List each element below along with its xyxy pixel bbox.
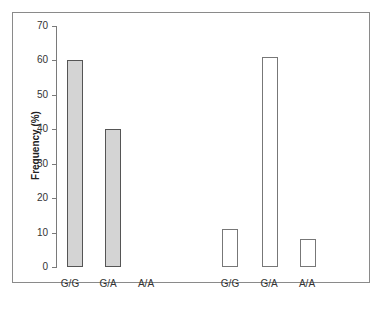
- y-tick-label: 20: [26, 192, 48, 203]
- y-tick: [52, 233, 56, 234]
- y-tick-label: 50: [26, 89, 48, 100]
- y-tick-label: 30: [26, 158, 48, 169]
- bar-aa: [300, 239, 316, 267]
- category-label: A/A: [131, 278, 161, 289]
- y-tick-label: 70: [26, 20, 48, 31]
- category-label: G/A: [254, 278, 284, 289]
- bar-gg: [67, 60, 83, 267]
- y-tick: [52, 60, 56, 61]
- y-tick: [52, 164, 56, 165]
- chart-frame: [12, 12, 370, 283]
- category-label: G/A: [93, 278, 123, 289]
- y-tick: [52, 26, 56, 27]
- bar-gg: [222, 229, 238, 267]
- bar-ga: [105, 129, 121, 267]
- category-label: G/G: [55, 278, 85, 289]
- category-label: G/G: [215, 278, 245, 289]
- y-axis: [56, 26, 57, 268]
- category-label: A/A: [292, 278, 322, 289]
- bar-ga: [262, 57, 278, 267]
- y-tick-label: 0: [26, 261, 48, 272]
- y-tick: [52, 95, 56, 96]
- y-tick: [52, 267, 56, 268]
- y-tick: [52, 129, 56, 130]
- y-tick-label: 10: [26, 227, 48, 238]
- y-tick-label: 40: [26, 123, 48, 134]
- y-tick-label: 60: [26, 54, 48, 65]
- y-tick: [52, 198, 56, 199]
- y-axis-label: Frequency (%): [30, 91, 41, 201]
